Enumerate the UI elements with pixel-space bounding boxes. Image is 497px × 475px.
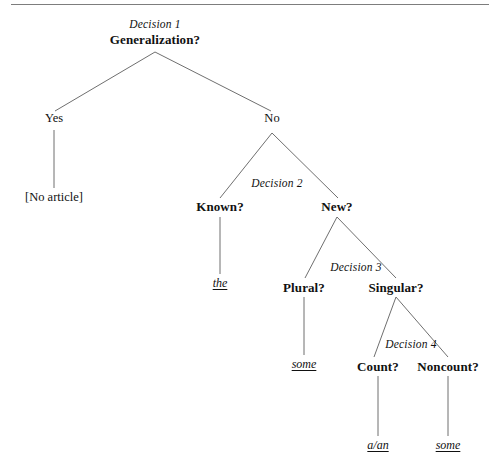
decision-tree-figure: Decision 1 Generalization? Yes No [No ar… <box>0 0 497 475</box>
decision-1-label: Decision 1 <box>129 18 181 30</box>
edge-root-to-no <box>155 52 271 111</box>
leaf-the: the <box>213 277 228 290</box>
decision-3-label: Decision 3 <box>330 261 382 273</box>
branch-label-no: No <box>264 112 279 125</box>
edge-root-to-yes <box>55 52 155 111</box>
decision-4-label: Decision 4 <box>385 338 437 350</box>
node-known: Known? <box>196 200 244 214</box>
node-count: Count? <box>357 360 399 374</box>
leaf-no-article: [No article] <box>25 191 83 204</box>
leaf-some-noncount: some <box>436 439 461 452</box>
node-generalization: Generalization? <box>110 33 200 47</box>
node-new: New? <box>321 200 352 214</box>
branch-label-yes: Yes <box>45 112 63 125</box>
node-plural: Plural? <box>283 281 325 295</box>
node-singular: Singular? <box>368 281 423 295</box>
tree-edges <box>0 0 497 475</box>
decision-2-label: Decision 2 <box>251 177 303 189</box>
node-noncount: Noncount? <box>417 360 479 374</box>
leaf-some-plural: some <box>292 358 317 371</box>
leaf-a-an: a/an <box>367 439 388 452</box>
